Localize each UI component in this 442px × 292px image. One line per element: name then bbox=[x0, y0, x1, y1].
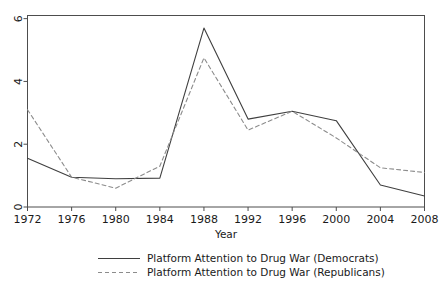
x-tick-label: 1996 bbox=[278, 213, 306, 226]
x-tick-label: 1976 bbox=[58, 213, 86, 226]
x-axis-title: Year bbox=[214, 228, 238, 240]
y-tick-label: 0 bbox=[12, 204, 25, 211]
x-tick-label: 1972 bbox=[14, 213, 42, 226]
x-tick-label: 1992 bbox=[234, 213, 262, 226]
x-tick-label: 2004 bbox=[366, 213, 394, 226]
chart-background bbox=[0, 0, 442, 292]
x-tick-label: 1984 bbox=[146, 213, 174, 226]
chart-figure: 0246 19721976198019841988199219962000200… bbox=[0, 0, 442, 292]
line-chart: 0246 19721976198019841988199219962000200… bbox=[0, 0, 442, 292]
y-tick-label: 2 bbox=[12, 141, 25, 148]
x-tick-label: 1980 bbox=[102, 213, 130, 226]
x-tick-label: 1988 bbox=[190, 213, 218, 226]
x-tick-label: 2008 bbox=[411, 213, 439, 226]
legend-label-republicans: Platform Attention to Drug War (Republic… bbox=[147, 266, 385, 278]
legend-label-democrats: Platform Attention to Drug War (Democrat… bbox=[147, 252, 379, 264]
y-tick-label: 4 bbox=[12, 78, 25, 85]
y-tick-label: 6 bbox=[12, 15, 25, 22]
x-tick-label: 2000 bbox=[322, 213, 350, 226]
